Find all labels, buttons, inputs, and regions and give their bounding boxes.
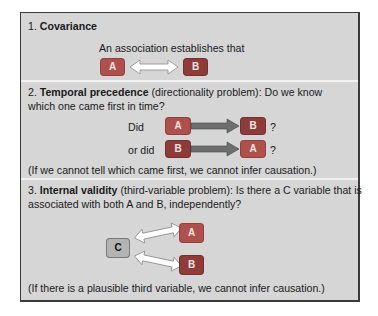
variable-box-a: A (240, 140, 266, 158)
section-title: Covariance (40, 20, 97, 32)
row-lead-text: or did (128, 144, 155, 157)
variable-box-a: A (100, 58, 125, 76)
variable-box-a: A (179, 223, 204, 243)
double-arrow-icon (129, 59, 179, 75)
section-heading: 2. Temporal precedence (directionality p… (28, 86, 322, 99)
section-heading: 1. Covariance (28, 20, 97, 33)
variable-box-c: C (106, 238, 130, 258)
section-temporal-precedence: 2. Temporal precedence (directionality p… (21, 82, 358, 178)
question-mark: ? (270, 144, 276, 157)
section-note: (If there is a plausible third variable,… (28, 282, 325, 295)
double-arrow-icon (133, 224, 183, 242)
covariance-statement: An association establishes that (99, 42, 244, 55)
section-heading: 3. Internal validity (third-variable pro… (28, 184, 362, 197)
variable-box-b: B (165, 140, 191, 158)
right-arrow-icon (191, 141, 241, 157)
variable-box-a: A (165, 117, 191, 135)
question-mark: ? (270, 121, 276, 134)
double-arrow-icon (133, 252, 183, 270)
variable-box-b: B (179, 255, 204, 275)
row-lead-text: Did (128, 121, 144, 134)
section-covariance: 1. Covariance An association establishes… (21, 13, 358, 80)
variable-box-b: B (240, 117, 266, 135)
criteria-for-causation-panel: 1. Covariance An association establishes… (20, 12, 360, 302)
section-internal-validity: 3. Internal validity (third-variable pro… (21, 180, 358, 300)
section-heading-line2: which one came first in time? (28, 100, 165, 113)
right-arrow-icon (191, 118, 241, 134)
variable-box-b: B (183, 58, 208, 76)
section-title: Temporal precedence (40, 86, 149, 98)
section-heading-line2: associated with both A and B, independen… (28, 198, 241, 211)
section-note: (If we cannot tell which came first, we … (28, 164, 317, 177)
section-title: Internal validity (40, 184, 118, 196)
